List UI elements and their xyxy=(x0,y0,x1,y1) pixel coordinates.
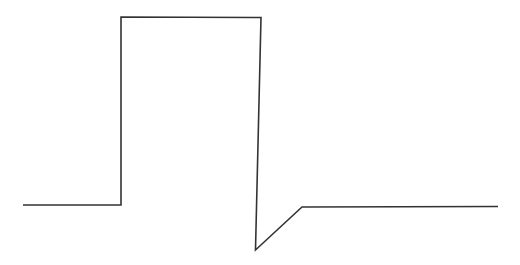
waveform-plot xyxy=(0,0,520,265)
waveform-figure xyxy=(0,0,520,265)
